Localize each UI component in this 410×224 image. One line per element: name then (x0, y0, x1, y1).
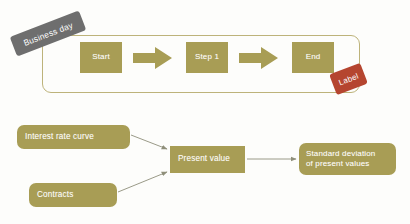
diagram-canvas: Start Step 1 End Business day Label Inte… (0, 0, 410, 224)
connector-contracts-to-present-value (118, 172, 167, 192)
node-contracts[interactable]: Contracts (29, 183, 117, 207)
node-present-value[interactable]: Present value (170, 146, 245, 173)
connector-interest-rate-to-present-value (131, 135, 167, 149)
node-standard-deviation[interactable]: Standard deviation of present values (299, 143, 396, 175)
node-interest-rate-curve[interactable]: Interest rate curve (17, 125, 130, 149)
chevron-arrow-step1-to-end (239, 46, 279, 70)
process-node-end[interactable]: End (292, 42, 334, 73)
process-node-start[interactable]: Start (80, 42, 122, 73)
chevron-arrow-start-to-step1 (133, 46, 173, 70)
process-node-step1[interactable]: Step 1 (186, 42, 228, 73)
